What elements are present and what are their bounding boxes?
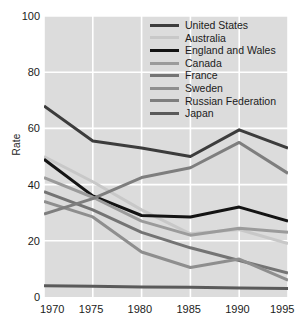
legend-swatch [150,74,179,77]
legend-item[interactable]: Russian Federation [150,95,296,108]
x-axis-tick-label: 1985 [176,304,200,315]
legend-label: France [185,70,218,81]
legend: United StatesAustraliaEngland and WalesC… [150,19,296,120]
legend-swatch [150,62,179,65]
legend-item[interactable]: Japan [150,107,296,120]
y-axis-tick-label: 100 [6,11,40,22]
legend-label: Canada [185,58,222,69]
legend-item[interactable]: England and Wales [150,44,296,57]
y-axis-tick-label: 20 [6,236,40,247]
x-axis-tick-label: 1980 [128,304,152,315]
y-axis-tick-labels: 020406080100 [0,0,40,323]
legend-swatch [150,49,179,52]
y-axis-tick-label: 80 [6,67,40,78]
y-axis-tick-label: 40 [6,180,40,191]
y-axis-tick-label: 60 [6,123,40,134]
x-axis-tick-labels: 197019751980198519901995 [0,300,302,320]
legend-item[interactable]: Canada [150,57,296,70]
series-line [44,286,288,289]
legend-item[interactable]: Sweden [150,82,296,95]
x-axis-tick-label: 1975 [79,304,103,315]
legend-item[interactable]: France [150,69,296,82]
x-axis-tick-label: 1970 [40,304,64,315]
legend-label: England and Wales [185,45,276,56]
legend-swatch [150,87,179,90]
legend-swatch [150,36,179,39]
legend-swatch [150,112,179,115]
legend-label: Russian Federation [185,96,276,107]
chart-figure: Rate 020406080100 1970197519801985199019… [0,0,302,323]
legend-label: United States [185,20,248,31]
x-axis-tick-label: 1990 [225,304,249,315]
legend-label: Australia [185,33,226,44]
legend-swatch [150,99,179,102]
legend-label: Japan [185,108,214,119]
legend-label: Sweden [185,83,223,94]
legend-item[interactable]: United States [150,19,296,32]
legend-item[interactable]: Australia [150,32,296,45]
x-axis-tick-label: 1995 [270,304,294,315]
legend-swatch [150,24,179,27]
